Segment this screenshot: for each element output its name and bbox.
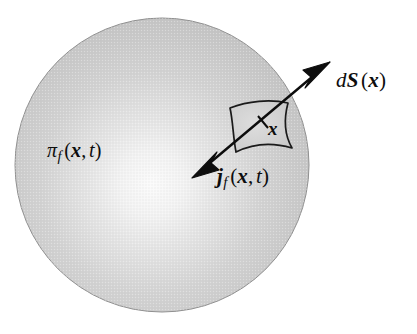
ds-d-symbol: d [336,68,347,92]
pi-open-paren: ( [64,139,71,161]
j-subscript-f: f [223,174,227,190]
pi-comma: , [81,139,86,161]
j-close-paren: ) [262,164,269,188]
ds-label: dS(x) [336,70,386,91]
pi-subscript-f: f [57,148,61,164]
figure-vector-layer [0,0,417,334]
ds-S-symbol: S [347,68,359,92]
arrowhead-ds-up-right [303,62,330,88]
surface-element-patch [230,101,292,152]
pi-f-label: πf(x,t) [47,140,102,163]
figure-canvas: dS(x) πf(x,t) jf(x,t) x [0,0,417,334]
ds-x-vector: x [368,68,379,92]
pi-symbol: π [47,139,57,161]
j-comma: , [248,164,253,188]
j-f-label: jf(x,t) [217,166,269,190]
x-position-label: x [268,119,278,138]
pi-close-paren: ) [95,139,102,161]
pi-x-vector: x [71,139,81,161]
j-x-vector: x [237,164,248,188]
ds-close-paren: ) [379,68,386,92]
